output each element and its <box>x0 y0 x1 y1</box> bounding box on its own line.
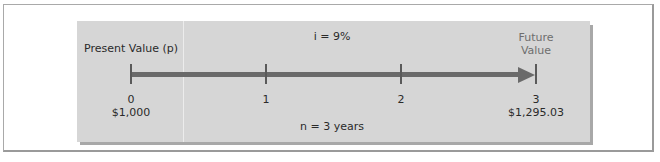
panel-divider <box>183 21 184 142</box>
interest-rate-label: i = 9% <box>314 30 351 43</box>
period-3-label: 3 <box>533 93 540 106</box>
tick-0 <box>130 64 132 84</box>
arrow-head-icon <box>518 67 535 83</box>
tick-3 <box>535 64 537 84</box>
future-value-line2: Value <box>518 44 553 57</box>
period-3-value: $1,295.03 <box>508 106 564 119</box>
tick-2 <box>400 64 402 84</box>
future-value-label: Future Value <box>518 31 553 57</box>
period-0-label: 0 <box>128 93 135 106</box>
present-value-label: Present Value (p) <box>84 42 178 55</box>
periods-label: n = 3 years <box>300 120 364 133</box>
future-value-line1: Future <box>518 31 553 44</box>
period-1-label: 1 <box>263 93 270 106</box>
tick-1 <box>265 64 267 84</box>
period-0-value: $1,000 <box>112 106 151 119</box>
period-2-label: 2 <box>398 93 405 106</box>
timeline-axis <box>132 72 522 77</box>
